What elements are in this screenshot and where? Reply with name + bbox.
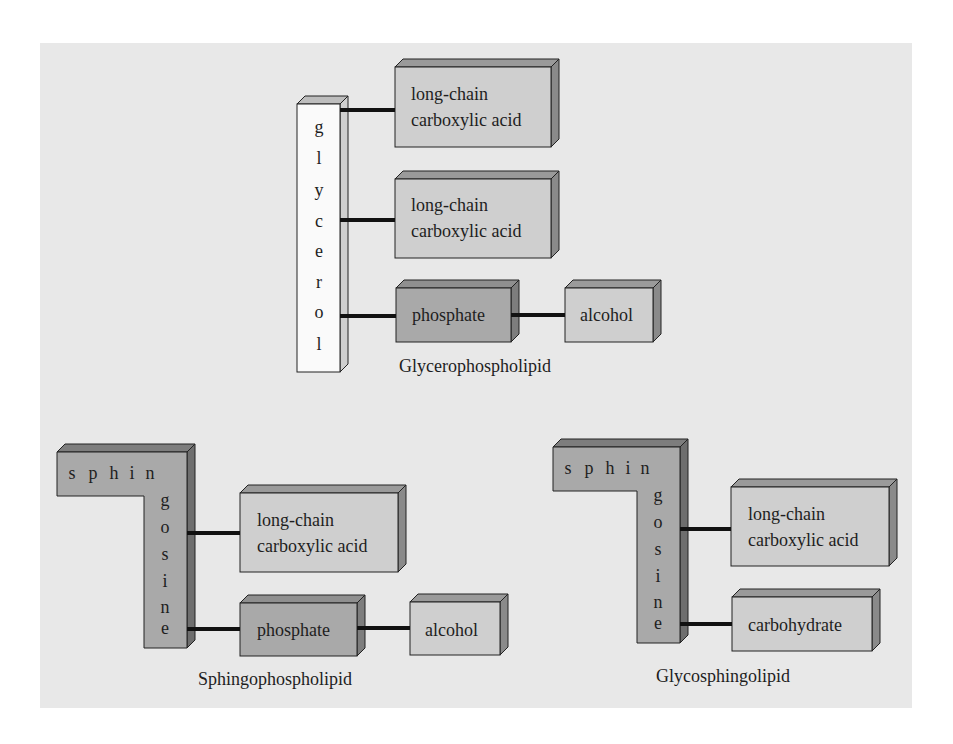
fatty-acid-label-right-line1: long-chain: [748, 501, 825, 527]
fatty-acid-label-1-line2: carboxylic acid: [411, 107, 521, 133]
sphingosine-letter: g: [648, 485, 668, 506]
fatty-acid-label-left-line1: long-chain: [257, 507, 334, 533]
glycerol-letter: g: [309, 117, 329, 138]
sphingosine-letter: h: [600, 458, 620, 479]
caption-glycerophospholipid: Glycerophospholipid: [399, 356, 551, 377]
caption-sphingophospholipid: Sphingophospholipid: [198, 669, 352, 690]
glycerol-letter: y: [309, 180, 329, 201]
sphingosine-letter: o: [155, 517, 175, 538]
sphingosine-letter: s: [648, 539, 668, 560]
sphingosine-letter: h: [104, 463, 124, 484]
glycerol-letter: r: [309, 272, 329, 293]
sphingosine-letter: p: [579, 458, 599, 479]
glycerol-letter: e: [309, 241, 329, 262]
sphingosine-letter: s: [558, 458, 578, 479]
fatty-acid-label-2-line2: carboxylic acid: [411, 218, 521, 244]
glycerol-letter: l: [309, 148, 329, 169]
sphingosine-letter: p: [83, 463, 103, 484]
carbohydrate-label: carbohydrate: [748, 612, 842, 638]
alcohol-label: alcohol: [580, 302, 633, 328]
glycerol-letter: o: [309, 302, 329, 323]
sphingosine-letter: o: [648, 512, 668, 533]
sphingosine-letter: i: [155, 571, 175, 592]
phosphate-label-left: phosphate: [257, 617, 330, 643]
sphingosine-letter: e: [155, 618, 175, 639]
sphingosine-letter: n: [635, 458, 655, 479]
sphingosine-letter: e: [648, 613, 668, 634]
fatty-acid-label-right-line2: carboxylic acid: [748, 527, 858, 553]
fatty-acid-label-left-line2: carboxylic acid: [257, 533, 367, 559]
sphingosine-letter: g: [155, 490, 175, 511]
alcohol-label-left: alcohol: [425, 617, 478, 643]
caption-glycosphingolipid: Glycosphingolipid: [656, 666, 790, 687]
sphingosine-letter: s: [62, 463, 82, 484]
glycerol-letter: c: [309, 211, 329, 232]
phosphate-label: phosphate: [412, 302, 485, 328]
sphingosine-letter: s: [155, 544, 175, 565]
glycerol-letter: l: [309, 334, 329, 355]
sphingosine-letter: i: [122, 463, 142, 484]
sphingosine-letter: n: [648, 592, 668, 613]
fatty-acid-label-2-line1: long-chain: [411, 192, 488, 218]
sphingosine-letter: n: [140, 463, 160, 484]
fatty-acid-label-1-line1: long-chain: [411, 81, 488, 107]
sphingosine-letter: i: [648, 566, 668, 587]
sphingosine-letter: n: [155, 597, 175, 618]
